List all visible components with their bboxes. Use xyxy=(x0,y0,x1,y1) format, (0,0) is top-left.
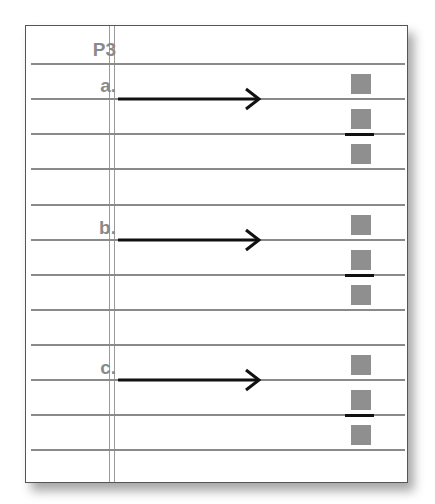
right-arrow-icon xyxy=(118,228,264,252)
rule-line xyxy=(31,344,405,346)
denominator-box[interactable] xyxy=(351,285,371,305)
rule-line xyxy=(31,204,405,206)
numerator-box[interactable] xyxy=(351,74,371,94)
right-arrow-icon xyxy=(118,87,264,111)
fraction-bar xyxy=(345,414,374,417)
problem-label: b. xyxy=(99,218,116,238)
whole-box[interactable] xyxy=(351,250,371,270)
whole-box[interactable] xyxy=(351,109,371,129)
right-arrow-icon xyxy=(118,368,264,392)
numerator-box[interactable] xyxy=(351,355,371,375)
rule-line xyxy=(31,168,405,170)
worksheet-title: P3 xyxy=(93,40,116,60)
numerator-box[interactable] xyxy=(351,215,371,235)
problem-label: c. xyxy=(100,358,116,378)
denominator-box[interactable] xyxy=(351,144,371,164)
problem-label: a. xyxy=(100,76,116,96)
fraction-bar xyxy=(345,274,374,277)
whole-box[interactable] xyxy=(351,390,371,410)
rule-line xyxy=(31,449,405,451)
fraction-bar xyxy=(345,133,374,136)
denominator-box[interactable] xyxy=(351,425,371,445)
rule-line xyxy=(31,309,405,311)
worksheet-paper: P3 a. b. c. xyxy=(25,25,408,483)
rule-line xyxy=(31,63,405,65)
